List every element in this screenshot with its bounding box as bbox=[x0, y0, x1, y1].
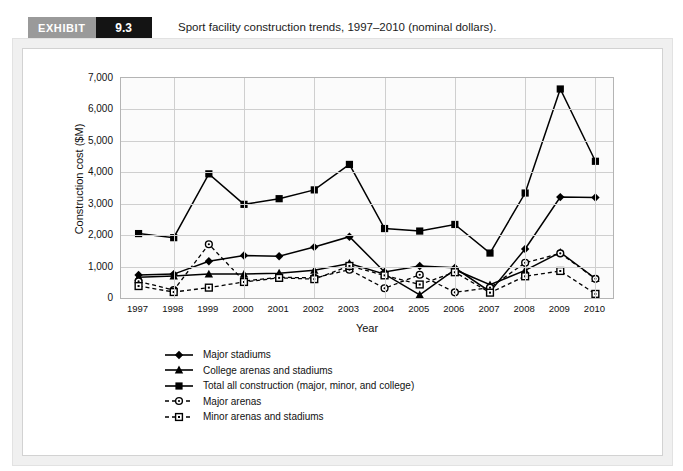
legend-label: College arenas and stadiums bbox=[203, 365, 333, 376]
legend-item[interactable]: Total all construction (major, minor, an… bbox=[164, 378, 414, 394]
data-point-filled-square bbox=[346, 161, 353, 168]
data-point-filled-triangle bbox=[416, 290, 424, 298]
legend-label: Major arenas bbox=[203, 396, 261, 407]
gridline-vertical bbox=[174, 78, 175, 298]
data-point-open-circle bbox=[176, 398, 183, 405]
data-point-filled-square bbox=[276, 195, 283, 202]
y-tick-label: 2,000 bbox=[67, 229, 113, 240]
chart-series-layer bbox=[121, 78, 613, 298]
data-point-open-square bbox=[205, 284, 212, 291]
legend-label: Minor arenas and stadiums bbox=[203, 411, 324, 422]
data-point-open-square bbox=[487, 289, 494, 296]
gridline-vertical bbox=[314, 78, 315, 298]
chart-legend: Major stadiumsCollege arenas and stadium… bbox=[164, 347, 414, 425]
y-tick-label: 1,000 bbox=[67, 261, 113, 272]
y-tick-label: 5,000 bbox=[67, 135, 113, 146]
y-tick-label: 3,000 bbox=[67, 198, 113, 209]
y-tick-label: 0 bbox=[67, 292, 113, 303]
data-point-filled-diamond bbox=[205, 257, 213, 265]
gridline-horizontal bbox=[121, 109, 613, 110]
data-point-open-circle bbox=[416, 271, 423, 278]
x-axis-ticks: 1997199819992000200120022003200420052006… bbox=[120, 303, 614, 319]
data-point-filled-square bbox=[486, 249, 493, 256]
y-axis-ticks: 01,0002,0003,0004,0005,0006,0007,000 bbox=[61, 77, 113, 299]
data-point-open-square bbox=[557, 268, 564, 275]
legend-marker-filled-triangle-icon bbox=[164, 363, 194, 377]
exhibit-header: EXHIBIT 9.3 Sport facility construction … bbox=[0, 0, 683, 52]
y-tick-label: 7,000 bbox=[67, 72, 113, 83]
data-point-filled-square bbox=[175, 382, 182, 389]
legend-item[interactable]: Minor arenas and stadiums bbox=[164, 409, 414, 425]
data-point-open-square bbox=[176, 413, 183, 420]
gridline-vertical bbox=[244, 78, 245, 298]
exhibit-badge: EXHIBIT 9.3 bbox=[28, 17, 152, 39]
x-axis-title: Year bbox=[120, 322, 614, 334]
exhibit-caption: Sport facility construction trends, 1997… bbox=[178, 21, 496, 33]
legend-item[interactable]: College arenas and stadiums bbox=[164, 363, 414, 379]
legend-marker-open-square-icon bbox=[164, 410, 194, 424]
gridline-horizontal bbox=[121, 267, 613, 268]
legend-marker-open-circle-icon bbox=[164, 394, 194, 408]
gridline-horizontal bbox=[121, 172, 613, 173]
series-0 bbox=[134, 193, 599, 296]
data-point-filled-diamond bbox=[175, 351, 183, 359]
x-tick-label: 2010 bbox=[571, 303, 617, 314]
data-point-open-square bbox=[276, 274, 283, 281]
data-point-filled-square bbox=[557, 85, 564, 92]
plot-area bbox=[120, 77, 614, 299]
legend-item[interactable]: Major stadiums bbox=[164, 347, 414, 363]
figure-card: Construction cost ($M) 01,0002,0003,0004… bbox=[22, 48, 663, 456]
series-2 bbox=[135, 85, 599, 256]
y-tick-label: 4,000 bbox=[67, 166, 113, 177]
y-tick-label: 6,000 bbox=[67, 103, 113, 114]
exhibit-label: EXHIBIT bbox=[28, 17, 96, 39]
data-point-open-square bbox=[135, 283, 142, 290]
data-point-filled-diamond bbox=[556, 193, 564, 201]
data-point-open-square bbox=[416, 281, 423, 288]
legend-label: Total all construction (major, minor, an… bbox=[203, 380, 414, 391]
exhibit-number: 9.3 bbox=[96, 17, 152, 39]
legend-marker-filled-diamond-icon bbox=[164, 348, 194, 362]
data-point-open-circle bbox=[557, 250, 564, 257]
legend-marker-filled-square-icon bbox=[164, 379, 194, 393]
gridline-vertical bbox=[385, 78, 386, 298]
data-point-filled-diamond bbox=[275, 252, 283, 260]
series-1 bbox=[134, 248, 599, 298]
data-point-open-circle bbox=[205, 241, 212, 248]
gridline-horizontal bbox=[121, 235, 613, 236]
gridline-horizontal bbox=[121, 204, 613, 205]
line-chart: Construction cost ($M) 01,0002,0003,0004… bbox=[45, 63, 640, 363]
data-point-filled-square bbox=[416, 227, 423, 234]
gridline-vertical bbox=[595, 78, 596, 298]
legend-label: Major stadiums bbox=[203, 349, 271, 360]
figure-inner: Construction cost ($M) 01,0002,0003,0004… bbox=[45, 63, 640, 441]
gridline-vertical bbox=[525, 78, 526, 298]
legend-item[interactable]: Major arenas bbox=[164, 394, 414, 410]
gridline-vertical bbox=[455, 78, 456, 298]
gridline-horizontal bbox=[121, 141, 613, 142]
